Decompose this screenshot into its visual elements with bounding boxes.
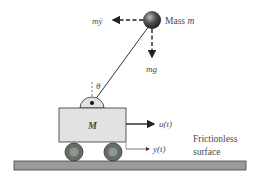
position-label: y(t) — [152, 144, 166, 154]
surface-label-line1: Frictionless — [193, 134, 238, 144]
inertial-force-label: mÿ — [92, 16, 103, 26]
cart-pendulum-diagram: θ M u(t) y(t) Frictionless surface mÿ mg… — [0, 0, 262, 175]
cart-mass-label: M — [87, 120, 98, 131]
mass-label: Mass m — [165, 16, 194, 26]
wheel-left — [65, 143, 83, 161]
pivot-point — [90, 101, 94, 105]
mass-label-var: m — [187, 16, 194, 26]
wheel-right — [104, 143, 122, 161]
pendulum-rod — [92, 26, 149, 104]
mass-label-prefix: Mass — [165, 16, 187, 26]
pendulum-mass-ball — [143, 11, 161, 29]
surface-label-line2: surface — [193, 147, 220, 157]
angle-label: θ — [96, 81, 101, 91]
input-force-label: u(t) — [159, 119, 172, 129]
ground-surface — [14, 161, 246, 170]
gravity-label: mg — [146, 64, 157, 74]
